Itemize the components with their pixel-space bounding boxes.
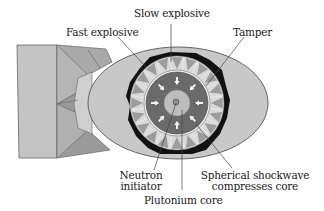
label-slow-explosive: Slow explosive — [134, 8, 210, 19]
label-neutron-initiator-line2: initiator — [116, 181, 166, 192]
implosion-bomb-diagram: Slow explosive Fast explosive Tamper Neu… — [0, 0, 324, 211]
label-plutonium-core: Plutonium core — [144, 195, 223, 206]
label-tamper: Tamper — [233, 27, 272, 38]
label-shockwave-line2: compresses core — [200, 181, 310, 192]
label-fast-explosive: Fast explosive — [66, 27, 138, 38]
